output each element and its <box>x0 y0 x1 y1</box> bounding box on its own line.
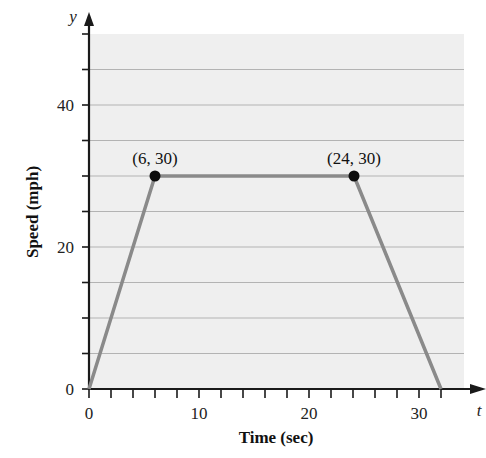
y-tick-label-0: 0 <box>66 380 75 399</box>
annotation-6-30: (6, 30) <box>132 149 177 168</box>
point-marker-6-30 <box>150 171 161 182</box>
y-axis-arrow-icon <box>84 12 94 26</box>
x-axis-title: Time (sec) <box>239 428 314 447</box>
x-tick-label-30: 30 <box>411 404 428 423</box>
y-tick-label-40: 40 <box>57 96 74 115</box>
x-tick-label-10: 10 <box>191 404 208 423</box>
y-tick-label-20: 20 <box>57 238 74 257</box>
x-tick-label-20: 20 <box>301 404 318 423</box>
x-axis-variable: t <box>477 401 483 420</box>
y-axis-title: Speed (mph) <box>23 166 42 258</box>
y-axis-variable: y <box>67 7 77 26</box>
x-axis-arrow-icon <box>470 384 486 394</box>
annotation-24-30: (24, 30) <box>327 149 381 168</box>
x-tick-label-0: 0 <box>85 404 94 423</box>
speed-time-chart: (6, 30) (24, 30) 40 20 0 0 10 20 30 y t … <box>0 0 486 458</box>
x-ticks <box>89 389 441 398</box>
point-marker-24-30 <box>349 171 360 182</box>
